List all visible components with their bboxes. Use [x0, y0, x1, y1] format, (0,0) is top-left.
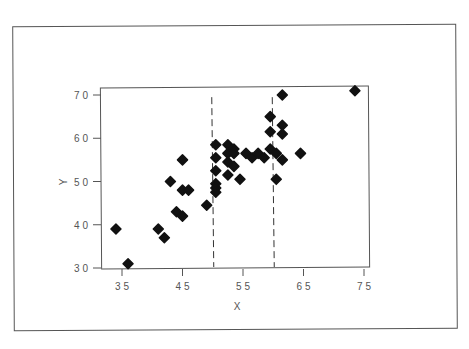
x-tick-label: 4 5: [176, 281, 190, 292]
data-point: [223, 170, 233, 180]
plot-area: [100, 86, 369, 269]
x-tick-label: 5 5: [236, 281, 250, 292]
y-tick-label: 4 0: [74, 220, 88, 231]
y-tick-label: 6 0: [74, 133, 88, 144]
data-point: [277, 129, 287, 139]
data-point: [265, 112, 275, 122]
data-point: [178, 155, 188, 165]
data-point: [235, 174, 245, 184]
data-points: [111, 86, 360, 269]
data-point: [111, 224, 121, 234]
x-axis-title: X: [234, 301, 241, 312]
data-point: [153, 224, 163, 234]
data-point: [295, 148, 305, 158]
x-tick-label: 3 5: [115, 281, 129, 292]
y-axis: 3 04 05 06 07 0: [74, 90, 101, 274]
x-tick-label: 7 5: [357, 281, 371, 292]
y-tick-label: 5 0: [74, 177, 88, 188]
data-point: [165, 177, 175, 187]
data-point: [277, 90, 287, 100]
data-point: [265, 127, 275, 137]
x-tick-label: 6 5: [297, 281, 311, 292]
y-axis-title: Y: [58, 178, 69, 185]
data-point: [350, 86, 360, 96]
data-point: [202, 200, 212, 210]
scatter-chart: 3 04 05 06 07 0 3 54 55 56 57 5 X Y: [0, 0, 469, 349]
x-axis: 3 54 55 56 57 5: [115, 269, 371, 292]
y-tick-label: 3 0: [74, 263, 88, 274]
data-point: [123, 259, 133, 269]
data-point: [159, 233, 169, 243]
y-tick-label: 7 0: [74, 90, 88, 101]
